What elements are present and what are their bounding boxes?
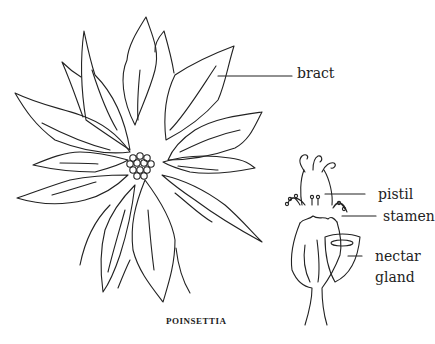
cyathium-detail bbox=[285, 155, 376, 325]
flower-center bbox=[127, 153, 154, 179]
label-bract: bract bbox=[297, 66, 334, 81]
diagram-caption: POINSETTIA bbox=[166, 316, 227, 326]
flower-bracts bbox=[15, 17, 292, 302]
label-pistil: pistil bbox=[378, 187, 413, 202]
label-nectar: nectar bbox=[375, 249, 421, 264]
label-stamen: stamen bbox=[383, 209, 435, 224]
label-gland: gland bbox=[375, 270, 415, 285]
